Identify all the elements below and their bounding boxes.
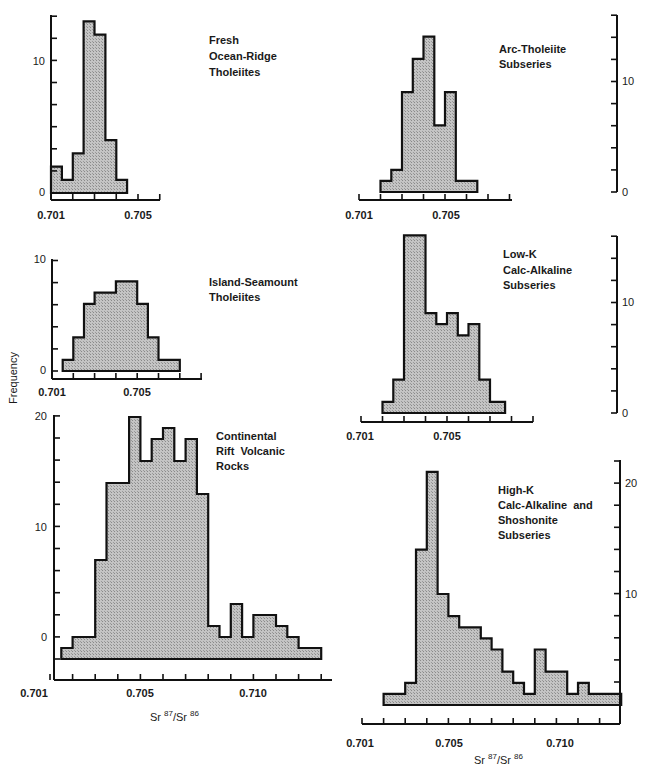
x-tick-label: 0.705: [126, 687, 154, 699]
panel-high-k-calc-alkaline-shoshonite-subseries: High-K Calc-Alkaline and Shoshonite Subs…: [346, 460, 637, 766]
y-tick-label: 10: [34, 253, 46, 265]
histogram-figure: Frequency Fresh Ocean-Ridge Tholeiites 0…: [0, 0, 651, 770]
panel-arc-tholeiite-subseries: Arc-Tholeiite Subseries 0.701 0.705 10 0: [345, 15, 634, 221]
panel-island-seamount-tholeiites: Island-Seamount Tholeiites 0.701 0.705 1…: [34, 253, 298, 398]
panel-title-line-1: Island-Seamount: [209, 276, 298, 288]
histogram-outline: [63, 281, 180, 371]
x-axis-title-part: Sr: [474, 754, 488, 766]
panel-fresh-ocean-ridge-tholeiites: Fresh Ocean-Ridge Tholeiites 0.701 0.705…: [33, 15, 277, 221]
panel-title-line-2: Ocean-Ridge: [209, 50, 277, 62]
histogram-outline: [383, 235, 506, 413]
panel-title-line-1: Continental: [216, 430, 277, 442]
x-tick-label: 0.701: [346, 430, 374, 442]
panel-title-line-3: Rocks: [216, 460, 249, 472]
panel-low-k-calc-alkaline-subseries: Low-K Calc-Alkaline Subseries 0.701 0.70…: [346, 235, 634, 442]
x-tick-label: 0.710: [239, 687, 267, 699]
x-axis-title: Sr 87/Sr 86: [150, 709, 200, 723]
x-axis-title-part: /Sr: [497, 754, 514, 766]
x-axis-title-sup: 86: [514, 752, 523, 761]
histogram-outline: [51, 21, 127, 193]
y-tick-label: 10: [33, 55, 45, 67]
x-tick-label: 0.705: [433, 430, 461, 442]
panel-title-line-2: Rift Volcanic: [216, 445, 285, 457]
panel-continental-rift-volcanic-rocks: Continental Rift Volcanic Rocks 0.701 0.…: [20, 410, 332, 723]
y-tick-label: 10: [35, 521, 47, 533]
x-tick-label: 0.710: [546, 737, 574, 749]
panel-title-line-3: Tholeiites: [209, 66, 260, 78]
panel-title-line-1: Low-K: [503, 248, 537, 260]
y-tick-label: 0: [622, 407, 628, 419]
y-tick-label: 0: [39, 186, 45, 198]
panel-title-line-2: Calc-Alkaline: [503, 264, 572, 276]
histogram-bars: [383, 235, 506, 413]
y-tick-label: 20: [625, 477, 637, 489]
panel-title-line-1: Arc-Tholeiite: [499, 43, 566, 55]
x-tick-label: 0.701: [345, 209, 373, 221]
y-tick-label: 10: [622, 75, 634, 87]
histogram-bars: [51, 21, 127, 193]
histogram-outline: [381, 37, 478, 192]
x-tick-label: 0.705: [123, 386, 151, 398]
y-tick-label: 0: [41, 631, 47, 643]
x-tick-label: 0.701: [37, 209, 65, 221]
x-tick-label: 0.705: [435, 737, 463, 749]
y-tick-label: 0: [40, 364, 46, 376]
panel-title-line-1: High-K: [498, 484, 534, 496]
x-axis-title-sup: 86: [190, 709, 199, 718]
y-tick-label: 0: [622, 186, 628, 198]
panel-title-line-3: Subseries: [503, 279, 556, 291]
x-axis-title-part: /Sr: [173, 711, 190, 723]
y-axis-title: Frequency: [7, 352, 19, 404]
x-tick-label: 0.705: [432, 209, 460, 221]
x-tick-label: 0.701: [20, 687, 48, 699]
y-tick-label: 10: [625, 588, 637, 600]
x-tick-label: 0.705: [124, 209, 152, 221]
y-tick-label: 10: [622, 296, 634, 308]
panel-title-line-2: Tholeiites: [209, 291, 260, 303]
histogram-bars: [381, 37, 478, 192]
panel-title-line-3: Shoshonite: [498, 514, 558, 526]
x-tick-label: 0.701: [38, 386, 66, 398]
x-tick-label: 0.701: [346, 737, 374, 749]
y-tick-label: 20: [35, 410, 47, 422]
panel-title-line-2: Subseries: [499, 58, 552, 70]
x-axis-title-part: Sr: [150, 711, 164, 723]
histogram-bars: [63, 281, 180, 371]
x-axis-title: Sr 87/Sr 86: [474, 752, 524, 766]
panel-title-line-4: Subseries: [498, 529, 551, 541]
panel-title-line-2: Calc-Alkaline and: [498, 499, 593, 511]
panel-title-line-1: Fresh: [209, 34, 239, 46]
